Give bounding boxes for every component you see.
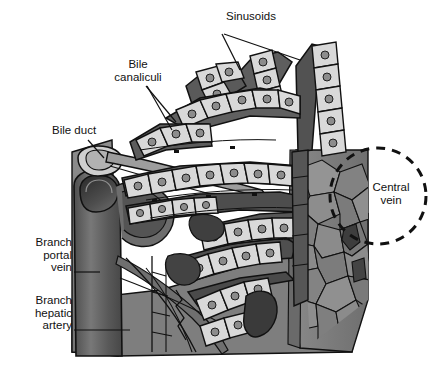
- label-central-vein: Central vein: [362, 181, 420, 206]
- label-bile-canaliculi: Bile canaliculi: [96, 58, 180, 83]
- label-bile-duct: Bile duct: [52, 124, 132, 137]
- label-branch-hepatic-artery: Branch hepatic artery: [4, 294, 72, 332]
- central-vein-channel: [292, 150, 308, 306]
- leader-bile-canaliculi-2: [147, 86, 172, 130]
- hepatocyte-plate-a: [296, 42, 346, 156]
- label-branch-portal-vein: Branch portal vein: [4, 236, 72, 274]
- label-sinusoids: Sinusoids: [196, 10, 306, 23]
